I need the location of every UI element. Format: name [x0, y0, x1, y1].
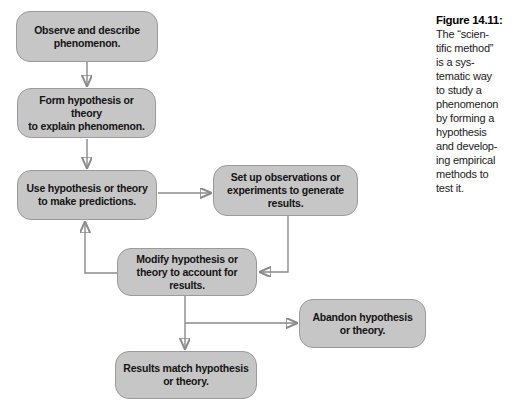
flow-box-setup-observations-label: Set up observations or experiments to ge… — [221, 169, 350, 212]
flow-box-use-hypothesis-label: Use hypothesis or theory to make predict… — [20, 180, 153, 210]
flow-box-results-match: Results match hypothesis or theory. — [115, 351, 257, 399]
flow-box-modify-hypothesis: Modify hypothesis or theory to account f… — [117, 248, 257, 296]
flow-box-form-hypothesis: Form hypothesis or theory to explain phe… — [17, 88, 156, 138]
flow-box-abandon-hypothesis: Abandon hypothesis or theory. — [299, 299, 426, 348]
flow-box-modify-hypothesis-label: Modify hypothesis or theory to account f… — [130, 251, 244, 294]
flow-box-abandon-hypothesis-label: Abandon hypothesis or theory. — [306, 309, 418, 339]
figure-caption-body: The “scien- tific method” is a sys- tema… — [436, 27, 512, 195]
scientific-method-flowchart: Observe and describe phenomenon. Form hy… — [0, 0, 515, 407]
arrow-setup-to-modify — [260, 216, 288, 272]
flow-box-use-hypothesis: Use hypothesis or theory to make predict… — [17, 170, 157, 220]
flow-box-setup-observations: Set up observations or experiments to ge… — [213, 165, 358, 216]
figure-caption: Figure 14.11: The “scien- tific method” … — [436, 13, 512, 195]
flow-box-form-hypothesis-label: Form hypothesis or theory to explain phe… — [18, 92, 155, 135]
flow-box-observe: Observe and describe phenomenon. — [16, 11, 158, 62]
flow-box-results-match-label: Results match hypothesis or theory. — [117, 360, 254, 390]
flow-box-observe-label: Observe and describe phenomenon. — [28, 22, 146, 52]
arrow-modify-to-use — [85, 222, 117, 273]
figure-caption-title: Figure 14.11: — [436, 13, 512, 27]
